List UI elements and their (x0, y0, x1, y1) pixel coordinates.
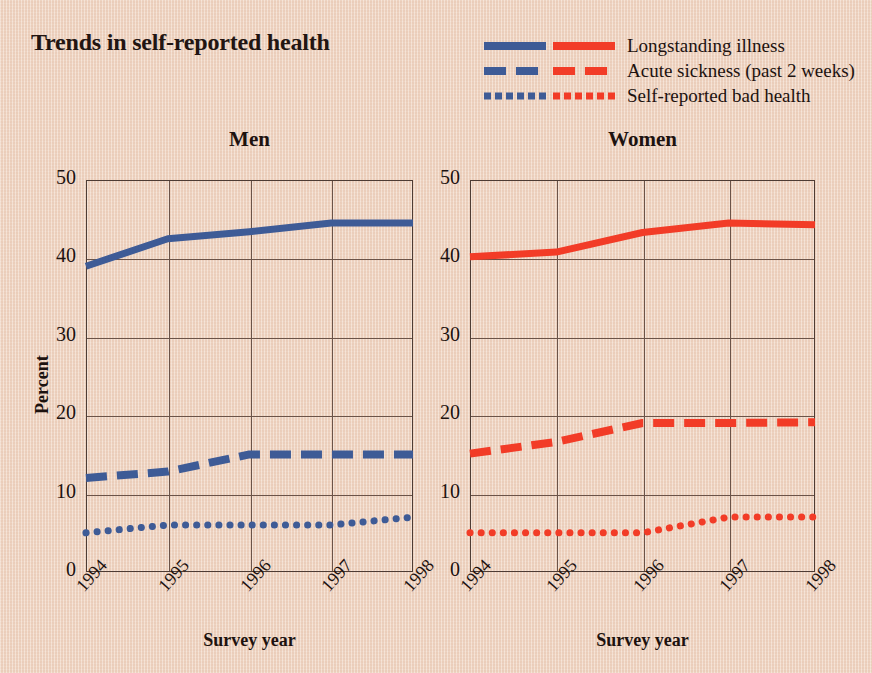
legend-swatch-red-dotted (553, 85, 615, 107)
legend-label-acute-sickness: Acute sickness (past 2 weeks) (627, 60, 855, 82)
y-tick-label: 40 (412, 244, 460, 267)
y-tick-label: 20 (28, 401, 76, 424)
legend-swatch-blue-dotted (484, 85, 546, 107)
legend-swatch-red-dashed (553, 60, 615, 82)
y-tick-label: 10 (412, 480, 460, 503)
y-tick-label: 30 (28, 323, 76, 346)
gridline-horizontal (471, 338, 814, 339)
plot-frame-men (86, 180, 413, 572)
legend-swatch-blue-dashed (484, 60, 546, 82)
legend-swatch-red-solid (553, 35, 615, 57)
y-tick-label: 10 (28, 480, 76, 503)
gridline-vertical (169, 181, 170, 571)
gridline-horizontal (471, 259, 814, 260)
gridline-vertical (644, 181, 645, 571)
gridline-vertical (730, 181, 731, 571)
gridline-horizontal (87, 495, 412, 496)
gridline-vertical (332, 181, 333, 571)
legend-item-longstanding-illness: Longstanding illness (484, 33, 855, 58)
legend-item-acute-sickness: Acute sickness (past 2 weeks) (484, 58, 855, 83)
plot-frame-women (470, 180, 815, 572)
x-axis-title-women: Survey year (470, 630, 815, 651)
y-tick-label: 0 (28, 558, 76, 581)
page-title: Trends in self-reported health (31, 29, 330, 56)
gridline-horizontal (471, 416, 814, 417)
y-tick-label: 20 (412, 401, 460, 424)
chart-page: Trends in self-reported health Longstand… (0, 0, 872, 673)
legend-item-bad-health: Self-reported bad health (484, 83, 855, 108)
legend-label-longstanding-illness: Longstanding illness (627, 35, 785, 57)
gridline-vertical (251, 181, 252, 571)
panel-title-men: Men (86, 127, 413, 152)
gridline-vertical (557, 181, 558, 571)
legend-swatch-blue-solid (484, 35, 546, 57)
x-axis-title-men: Survey year (86, 630, 413, 651)
gridline-horizontal (87, 338, 412, 339)
y-tick-label: 30 (412, 323, 460, 346)
gridline-horizontal (471, 495, 814, 496)
panel-title-women: Women (470, 127, 815, 152)
legend: Longstanding illness Acute sickness (pas… (484, 33, 855, 108)
gridline-horizontal (87, 416, 412, 417)
y-tick-label: 50 (412, 166, 460, 189)
legend-label-bad-health: Self-reported bad health (627, 85, 811, 107)
y-tick-label: 0 (412, 558, 460, 581)
y-tick-label: 50 (28, 166, 76, 189)
gridline-horizontal (87, 259, 412, 260)
y-tick-label: 40 (28, 244, 76, 267)
